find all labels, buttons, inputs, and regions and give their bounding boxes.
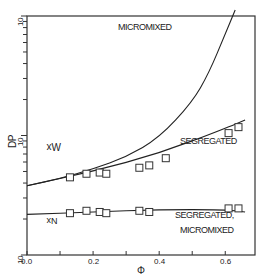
data-point-square xyxy=(96,169,103,176)
annotation-segregated: SEGREGATED xyxy=(180,136,237,146)
data-point-square xyxy=(136,207,143,214)
data-point-square xyxy=(235,205,242,212)
annotation-xn: xN xyxy=(47,216,57,226)
data-point-square xyxy=(83,207,90,214)
annotation-xw: xW xyxy=(47,142,60,153)
data-point-square xyxy=(103,210,110,217)
data-point-square xyxy=(66,210,73,217)
data-point-square xyxy=(103,170,110,177)
annotation-micromixed-top: MICROMIXED xyxy=(118,22,172,32)
x-axis-label: Φ xyxy=(137,265,144,276)
data-point-square xyxy=(146,208,153,215)
y-tick-label-top: 10 xyxy=(16,18,25,26)
x-tick-label-1: 0.2 xyxy=(88,257,99,266)
xw-subscript: W xyxy=(52,142,61,153)
data-point-square xyxy=(136,164,143,171)
curves xyxy=(27,10,245,214)
x-tick-label-0: 0.0 xyxy=(21,257,32,266)
annotation-segregated-bottom: SEGREGATED, xyxy=(175,210,234,220)
data-point-square xyxy=(66,174,73,181)
y-ticks xyxy=(21,16,27,255)
data-point-square xyxy=(162,155,169,162)
x-tick-label-2: 0.4 xyxy=(154,257,165,266)
xw-symbol: x xyxy=(47,142,52,153)
data-point-square xyxy=(146,162,153,169)
data-point-square xyxy=(83,170,90,177)
data-point-square xyxy=(235,124,242,131)
y-tick-label-mid: 10 xyxy=(16,138,25,146)
curve-x-w-micromixed xyxy=(27,10,235,186)
data-point-square xyxy=(96,208,103,215)
xn-symbol: x xyxy=(47,216,51,226)
xn-subscript: N xyxy=(51,216,57,226)
x-ticks xyxy=(27,251,225,255)
x-tick-label-3: 0.6 xyxy=(220,257,231,266)
annotation-micromixed-bottom: MICROMIXED xyxy=(180,225,234,235)
